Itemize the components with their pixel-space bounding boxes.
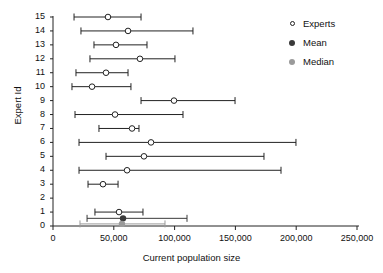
data-point-marker [171, 98, 177, 104]
x-axis-title: Current population size [0, 252, 383, 263]
x-tick-label: 100,000 [145, 233, 205, 243]
chart-container: 0123456789101112131415 050,000100,000150… [0, 0, 383, 273]
legend-swatch [289, 40, 295, 46]
legend-item-median[interactable]: Median [286, 52, 335, 71]
y-tick-label: 4 [25, 164, 45, 174]
chart-legend: ExpertsMeanMedian [286, 14, 335, 71]
y-tick-label: 3 [25, 178, 45, 188]
data-point-marker [125, 28, 131, 34]
x-tick-label: 150,000 [205, 233, 265, 243]
data-point-marker [124, 167, 130, 173]
data-point-marker [148, 140, 154, 146]
data-point-marker [116, 209, 122, 215]
data-series-group [72, 14, 296, 228]
legend-item-experts[interactable]: Experts [286, 14, 335, 33]
y-tick-label: 1 [25, 206, 45, 216]
y-tick-label: 14 [25, 25, 45, 35]
legend-item-mean[interactable]: Mean [286, 33, 335, 52]
legend-swatch [289, 59, 295, 65]
data-point-marker [137, 56, 143, 62]
x-tick-label: 0 [23, 233, 83, 243]
y-tick-label: 9 [25, 95, 45, 105]
y-tick-label: 0 [25, 220, 45, 230]
y-tick-label: 11 [25, 67, 45, 77]
legend-label: Experts [303, 18, 335, 29]
data-point-marker [129, 126, 135, 132]
y-tick-label: 13 [25, 39, 45, 49]
x-tick-label: 200,000 [266, 233, 326, 243]
data-point-marker [89, 84, 95, 90]
data-point-marker [103, 70, 109, 76]
y-tick-label: 2 [25, 192, 45, 202]
data-point-marker [105, 14, 111, 20]
y-tick-label: 10 [25, 81, 45, 91]
y-tick-label: 6 [25, 136, 45, 146]
data-point-marker [112, 112, 118, 118]
y-tick-label: 5 [25, 150, 45, 160]
legend-label: Median [303, 56, 334, 67]
x-tick-label: 50,000 [84, 233, 144, 243]
x-tick-label: 250,000 [327, 233, 383, 243]
legend-swatch [290, 21, 295, 26]
y-axis-title: Expert Id [12, 66, 23, 146]
y-tick-label: 7 [25, 122, 45, 132]
data-point-marker [120, 215, 126, 221]
data-point-marker [119, 221, 125, 227]
data-point-marker [100, 181, 106, 187]
y-tick-label: 8 [25, 109, 45, 119]
y-tick-label: 12 [25, 53, 45, 63]
data-point-marker [113, 42, 119, 48]
legend-label: Mean [303, 37, 327, 48]
y-tick-label: 15 [25, 11, 45, 21]
legend-marker-icon [286, 21, 298, 26]
data-point-marker [141, 154, 147, 160]
legend-marker-icon [286, 59, 298, 65]
legend-marker-icon [286, 40, 298, 46]
